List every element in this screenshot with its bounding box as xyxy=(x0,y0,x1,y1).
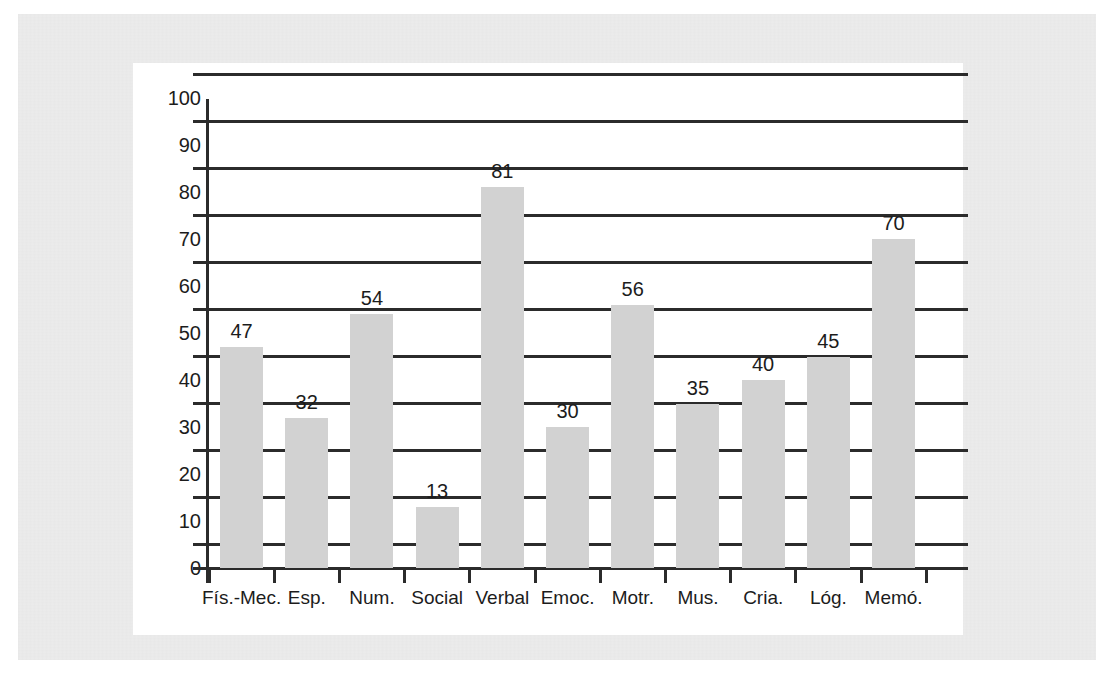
x-axis-tick-label: Lóg. xyxy=(810,587,847,609)
bar[interactable] xyxy=(546,427,589,568)
x-axis-tick-label: Social xyxy=(411,587,463,609)
bar[interactable] xyxy=(872,239,915,568)
x-axis-tick-label: Memó. xyxy=(865,587,923,609)
x-axis-tick xyxy=(729,570,732,583)
bar-value-label: 13 xyxy=(426,480,448,503)
x-axis-tick xyxy=(794,570,797,583)
bar[interactable] xyxy=(220,347,263,568)
bar[interactable] xyxy=(742,380,785,568)
bar[interactable] xyxy=(807,357,850,569)
x-axis-tick xyxy=(338,570,341,583)
x-axis-tick xyxy=(468,570,471,583)
bar-value-label: 32 xyxy=(296,391,318,414)
x-axis-tick-label: Emoc. xyxy=(541,587,595,609)
bar-value-label: 45 xyxy=(817,330,839,353)
x-axis-tick-label: Num. xyxy=(349,587,394,609)
x-axis-tick-label: Verbal xyxy=(475,587,529,609)
screenshot-root: 0102030405060708090100 47325413813056354… xyxy=(0,0,1116,691)
bar-value-label: 35 xyxy=(687,377,709,400)
bar-value-label: 47 xyxy=(230,320,252,343)
x-axis-tick xyxy=(860,570,863,583)
x-axis-tick xyxy=(208,570,211,583)
bar[interactable] xyxy=(481,187,524,568)
x-axis-tick xyxy=(925,570,928,583)
x-axis-tick-label: Esp. xyxy=(288,587,326,609)
bar-chart: 0102030405060708090100 47325413813056354… xyxy=(133,63,963,635)
bar-value-label: 70 xyxy=(882,212,904,235)
x-axis-tick-label: Fís.-Mec. xyxy=(202,587,281,609)
x-axis-tick xyxy=(599,570,602,583)
bar-value-label: 54 xyxy=(361,287,383,310)
bar-value-label: 81 xyxy=(491,160,513,183)
x-axis-tick xyxy=(534,570,537,583)
x-axis-tick xyxy=(664,570,667,583)
bar[interactable] xyxy=(350,314,393,568)
bar[interactable] xyxy=(416,507,459,568)
bar-value-label: 56 xyxy=(622,278,644,301)
x-axis-tick xyxy=(273,570,276,583)
x-axis-tick-label: Motr. xyxy=(612,587,654,609)
bars-group: 4732541381305635404570 xyxy=(133,63,963,635)
x-axis-tick xyxy=(403,570,406,583)
bar[interactable] xyxy=(676,404,719,569)
bar-value-label: 30 xyxy=(556,400,578,423)
bar[interactable] xyxy=(285,418,328,568)
x-axis-tick-label: Cria. xyxy=(743,587,783,609)
bar-value-label: 40 xyxy=(752,353,774,376)
bar[interactable] xyxy=(611,305,654,568)
x-axis-tick-label: Mus. xyxy=(677,587,718,609)
chart-panel: 0102030405060708090100 47325413813056354… xyxy=(133,63,963,635)
